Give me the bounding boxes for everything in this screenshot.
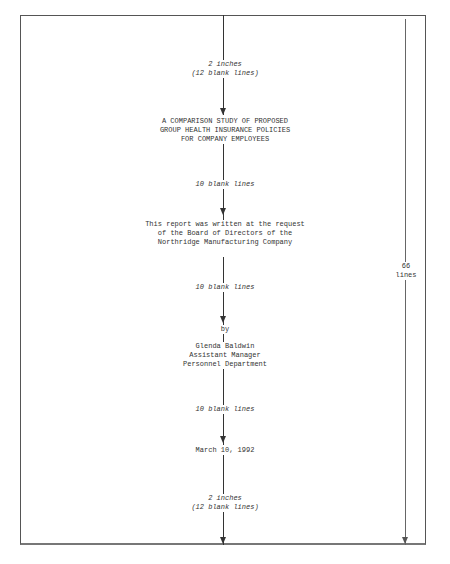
arrow-down-icon — [220, 316, 226, 323]
gap-label-1: 10 blank lines — [0, 180, 450, 189]
gap-label-2: 10 blank lines — [0, 283, 450, 292]
arrow-down-icon — [220, 436, 226, 443]
arrow-down-icon — [220, 537, 226, 544]
request-statement: This report was written at the request o… — [0, 220, 450, 247]
total-lines-label: 66 lines — [390, 262, 422, 280]
report-date: March 10, 1992 — [0, 446, 450, 455]
arrow-down-icon — [220, 208, 226, 215]
arrow-down-icon — [402, 537, 408, 544]
bottom-margin-label: 2 inches (12 blank lines) — [0, 494, 450, 512]
author-block: Glenda Baldwin Assistant Manager Personn… — [0, 342, 450, 369]
by-label: by — [0, 325, 450, 334]
arrow-down-icon — [220, 108, 226, 115]
total-lines-guide — [405, 19, 406, 545]
gap-label-3: 10 blank lines — [0, 405, 450, 414]
report-title: A COMPARISON STUDY OF PROPOSED GROUP HEA… — [0, 117, 450, 144]
top-margin-label: 2 inches (12 blank lines) — [0, 60, 450, 78]
